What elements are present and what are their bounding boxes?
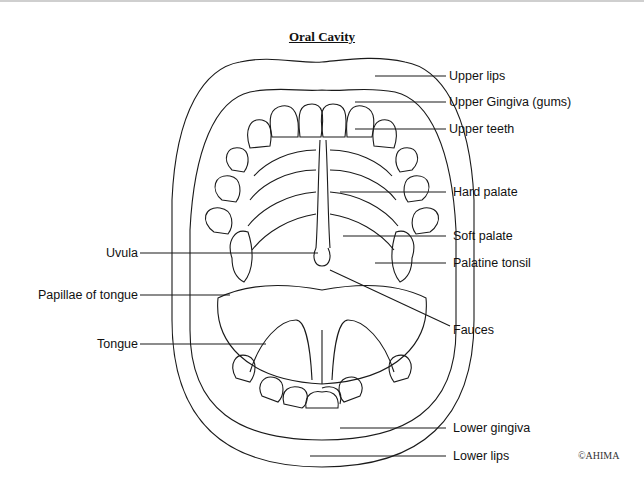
label-papillae-of-tongue: Papillae of tongue [38,288,138,302]
upper-canine-right [373,120,396,148]
label-upper-gingiva: Upper Gingiva (gums) [449,95,571,109]
oral-cavity-illustration [0,0,644,492]
label-palatine-tonsil: Palatine tonsil [453,256,531,270]
upper-incisor-3 [321,104,346,137]
label-lower-lips: Lower lips [453,449,509,463]
label-soft-palate: Soft palate [453,229,513,243]
label-upper-lips: Upper lips [449,69,505,83]
upper-incisor-4 [347,106,374,137]
upper-canine-left [248,120,271,148]
copyright-notice: ©AHIMA [578,450,619,461]
label-fauces: Fauces [453,323,494,337]
left-tonsil [230,231,252,282]
label-lower-gingiva: Lower gingiva [453,421,530,435]
label-uvula: Uvula [106,246,138,260]
upper-incisor-2 [299,104,323,137]
label-hard-palate: Hard palate [453,185,518,199]
right-tonsil [392,231,414,282]
uvula-shape [314,248,330,266]
upper-incisor-1 [270,106,298,137]
label-upper-teeth: Upper teeth [449,122,514,136]
label-tongue: Tongue [97,337,138,351]
